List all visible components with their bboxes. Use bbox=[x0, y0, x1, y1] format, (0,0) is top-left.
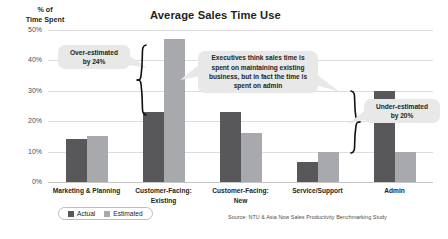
callout-executive-insight-text: Executives think sales time is spent on … bbox=[203, 53, 313, 90]
brace-over-estimated bbox=[135, 44, 149, 116]
callout-over-estimated: Over-estimated by 24% bbox=[58, 45, 130, 69]
callout-under-estimated-line1: Under-estimated bbox=[376, 102, 428, 111]
category-label-line: Marketing & Planning bbox=[48, 186, 125, 196]
chart-title: Average Sales Time Use bbox=[150, 9, 281, 21]
callout-executive-insight-tail-right bbox=[316, 72, 342, 98]
y-axis-tick-10%: 10% bbox=[4, 148, 42, 155]
legend-item-estimated[interactable]: Estimated bbox=[104, 210, 142, 217]
legend-label-actual: Actual bbox=[77, 210, 95, 217]
category-label: Customer-Facing:Existing bbox=[125, 186, 202, 205]
y-axis-tick-0%: 0% bbox=[4, 178, 42, 185]
category-label-line: Customer-Facing: bbox=[125, 186, 202, 196]
legend-swatch-actual bbox=[68, 211, 74, 217]
bar-estimated[interactable] bbox=[164, 39, 185, 182]
category-label-line: Service/Support bbox=[279, 186, 356, 196]
bar-actual[interactable] bbox=[143, 112, 164, 182]
chart-legend: Actual Estimated bbox=[58, 207, 153, 220]
y-axis-tick-50%: 50% bbox=[4, 26, 42, 33]
y-axis-tick-20%: 20% bbox=[4, 117, 42, 124]
bar-estimated[interactable] bbox=[87, 136, 108, 182]
bar-estimated[interactable] bbox=[395, 152, 416, 182]
legend-label-estimated: Estimated bbox=[113, 210, 142, 217]
callout-executive-insight-tail-left bbox=[178, 62, 200, 86]
category-label: Marketing & Planning bbox=[48, 186, 125, 196]
bar-actual[interactable] bbox=[297, 162, 318, 182]
bar-actual[interactable] bbox=[220, 112, 241, 182]
category-label-line: Customer-Facing: bbox=[202, 186, 279, 196]
category-label-line: New bbox=[202, 196, 279, 206]
source-note: Source: NTU & Asia Now Sales Productivit… bbox=[228, 214, 387, 220]
callout-under-estimated-line2: by 20% bbox=[376, 111, 428, 120]
y-axis-tick-40%: 40% bbox=[4, 56, 42, 63]
callout-under-estimated-tail bbox=[348, 106, 368, 128]
chart-root: % of Time Spent Average Sales Time Use 0… bbox=[0, 0, 448, 239]
callout-over-estimated-line2: by 24% bbox=[70, 57, 118, 66]
bar-actual[interactable] bbox=[66, 139, 87, 182]
y-axis-tick-30%: 30% bbox=[4, 87, 42, 94]
legend-swatch-estimated bbox=[104, 211, 110, 217]
gridline-0% bbox=[48, 182, 433, 183]
callout-over-estimated-line1: Over-estimated bbox=[70, 48, 118, 57]
category-label-line: Admin bbox=[356, 186, 433, 196]
y-axis-title-line1: % of bbox=[10, 5, 80, 15]
y-axis-title: % of Time Spent bbox=[10, 5, 80, 24]
bar-estimated[interactable] bbox=[318, 152, 339, 182]
bar-estimated[interactable] bbox=[241, 133, 262, 182]
category-label-line: Existing bbox=[125, 196, 202, 206]
category-label: Admin bbox=[356, 186, 433, 196]
legend-item-actual[interactable]: Actual bbox=[68, 210, 95, 217]
callout-under-estimated: Under-estimated by 20% bbox=[364, 99, 440, 123]
category-label: Customer-Facing:New bbox=[202, 186, 279, 205]
y-axis-title-line2: Time Spent bbox=[10, 15, 80, 25]
category-label: Service/Support bbox=[279, 186, 356, 196]
callout-executive-insight: Executives think sales time is spent on … bbox=[198, 51, 318, 93]
